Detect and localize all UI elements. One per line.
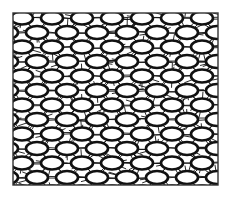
- cell-ellipse: [161, 186, 183, 199]
- cell-ellipse: [116, 84, 138, 97]
- cell-ellipse: [176, 171, 198, 184]
- cell-ellipse: [161, 128, 183, 141]
- cell-ellipse: [221, 128, 230, 141]
- cell-ellipse: [41, 186, 63, 199]
- cell-ellipse: [86, 84, 108, 97]
- cell-ellipse: [0, 12, 3, 25]
- cell-ellipse: [191, 128, 213, 141]
- cell-ellipse: [0, 142, 18, 155]
- cell-ellipse: [191, 99, 213, 112]
- cell-ellipse: [131, 128, 153, 141]
- cell-ellipse: [56, 171, 78, 184]
- cell-ellipse: [206, 26, 228, 39]
- cell-ellipse: [161, 70, 183, 83]
- cell-ellipse: [0, 157, 3, 170]
- cell-ellipse: [206, 84, 228, 97]
- cell-ellipse: [11, 157, 33, 170]
- cell-ellipse: [71, 99, 93, 112]
- cell-ellipse: [11, 70, 33, 83]
- cell-ellipse: [0, 55, 18, 68]
- cell-ellipse: [86, 26, 108, 39]
- cell-ellipse: [206, 171, 228, 184]
- cell-ellipse: [116, 26, 138, 39]
- cell-ellipse: [0, 70, 3, 83]
- cell-ellipse: [0, 84, 18, 97]
- cell-ellipse: [221, 41, 230, 54]
- cell-ellipse: [41, 99, 63, 112]
- cell-ellipse: [146, 113, 168, 126]
- cell-ellipse: [146, 26, 168, 39]
- cell-ellipse: [221, 12, 230, 25]
- cell-ellipse: [191, 70, 213, 83]
- cell-ellipse: [101, 41, 123, 54]
- cell-ellipse: [86, 55, 108, 68]
- cell-ellipse: [131, 157, 153, 170]
- cell-ellipse: [26, 113, 48, 126]
- cell-ellipse: [116, 55, 138, 68]
- cell-ellipse: [41, 70, 63, 83]
- cell-ellipse: [131, 70, 153, 83]
- cell-ellipse: [206, 55, 228, 68]
- cell-ellipse: [101, 70, 123, 83]
- ellipse-cells: [0, 0, 230, 198]
- cell-ellipse: [26, 0, 48, 10]
- cell-ellipse: [41, 128, 63, 141]
- cell-ellipse: [86, 0, 108, 10]
- cell-ellipse: [206, 113, 228, 126]
- cell-ellipse: [71, 157, 93, 170]
- cell-ellipse: [161, 99, 183, 112]
- cell-ellipse: [86, 171, 108, 184]
- cell-ellipse: [41, 157, 63, 170]
- cell-ellipse: [71, 128, 93, 141]
- cell-ellipse: [221, 186, 230, 199]
- cell-ellipse: [11, 99, 33, 112]
- cell-ellipse: [0, 0, 18, 10]
- cell-ellipse: [56, 55, 78, 68]
- cell-ellipse: [191, 186, 213, 199]
- cell-ellipse: [41, 41, 63, 54]
- cell-ellipse: [116, 171, 138, 184]
- cell-ellipse: [116, 113, 138, 126]
- cell-ellipse: [131, 41, 153, 54]
- cell-ellipse: [116, 0, 138, 10]
- cell-ellipse: [131, 99, 153, 112]
- cell-ellipse: [0, 99, 3, 112]
- cell-ellipse: [0, 113, 18, 126]
- cell-ellipse: [146, 55, 168, 68]
- cell-ellipse: [176, 0, 198, 10]
- cell-ellipse: [221, 99, 230, 112]
- cell-ellipse: [0, 41, 3, 54]
- cell-ellipse: [71, 70, 93, 83]
- cell-ellipse: [146, 171, 168, 184]
- cell-ellipse: [176, 55, 198, 68]
- cell-ellipse: [131, 186, 153, 199]
- cell-ellipse: [71, 41, 93, 54]
- cell-ellipse: [146, 142, 168, 155]
- cell-ellipse: [86, 142, 108, 155]
- cell-ellipse: [11, 128, 33, 141]
- cell-ellipse: [101, 99, 123, 112]
- cell-ellipse: [221, 70, 230, 83]
- lattice-drawing: [0, 0, 230, 198]
- cell-ellipse: [0, 171, 18, 184]
- cell-ellipse: [146, 0, 168, 10]
- cell-ellipse: [56, 26, 78, 39]
- cell-ellipse: [0, 26, 18, 39]
- cell-ellipse: [11, 41, 33, 54]
- cell-ellipse: [191, 41, 213, 54]
- cell-ellipse: [56, 0, 78, 10]
- cell-ellipse: [206, 0, 228, 10]
- cell-ellipse: [206, 142, 228, 155]
- cell-ellipse: [11, 186, 33, 199]
- cell-ellipse: [56, 84, 78, 97]
- cell-ellipse: [176, 26, 198, 39]
- cell-ellipse: [0, 128, 3, 141]
- cell-ellipse: [26, 26, 48, 39]
- cell-ellipse: [56, 113, 78, 126]
- cell-ellipse: [116, 142, 138, 155]
- cell-ellipse: [0, 186, 3, 199]
- cell-ellipse: [221, 157, 230, 170]
- cell-ellipse: [191, 157, 213, 170]
- cell-ellipse: [176, 142, 198, 155]
- cell-ellipse: [176, 113, 198, 126]
